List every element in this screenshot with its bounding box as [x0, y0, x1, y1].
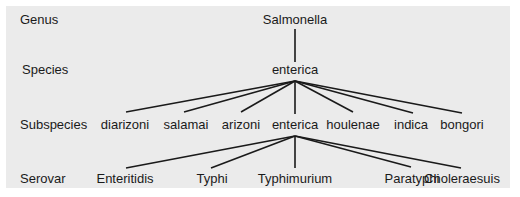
tree-edges	[0, 0, 520, 197]
node-subspecies-indica: indica	[394, 117, 428, 132]
node-genus: Salmonella	[263, 12, 327, 27]
edge-species-salamai	[184, 81, 295, 112]
node-serovar-typhimurium: Typhimurium	[258, 171, 332, 186]
edge-subspecies-choleraesuis	[295, 136, 461, 168]
node-subspecies-arizoni: arizoni	[222, 117, 260, 132]
rank-species: Species	[22, 62, 68, 77]
edge-species-indica	[295, 81, 413, 113]
node-serovar-choleraesuis: Choleraesuis	[424, 171, 500, 186]
node-serovar-enteritidis: Enteritidis	[96, 171, 153, 186]
node-species: enterica	[272, 62, 318, 77]
edge-species-bongori	[295, 81, 462, 113]
node-subspecies-salamai: salamai	[164, 117, 209, 132]
rank-serovar: Serovar	[20, 171, 66, 186]
edge-species-houlenae	[295, 81, 353, 112]
rank-genus: Genus	[20, 12, 58, 27]
node-subspecies-diarizoni: diarizoni	[101, 117, 149, 132]
node-serovar-typhi: Typhi	[196, 171, 227, 186]
node-subspecies-enterica: enterica	[272, 117, 318, 132]
edge-species-diarizoni	[126, 81, 295, 112]
edge-subspecies-typhi	[211, 136, 295, 168]
edge-subspecies-enteritidis	[126, 136, 295, 168]
rank-subspecies: Subspecies	[20, 117, 87, 132]
node-subspecies-houlenae: houlenae	[326, 117, 380, 132]
edge-subspecies-paratyphi	[295, 136, 411, 167]
node-subspecies-bongori: bongori	[440, 117, 483, 132]
